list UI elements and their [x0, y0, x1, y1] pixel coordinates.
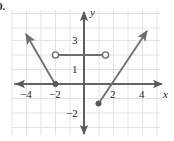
- closed-dot-left: [53, 81, 58, 86]
- x-tick-label-pos2: 2: [110, 88, 116, 100]
- open-circle-right: [102, 52, 108, 58]
- y-tick-label-pos1: 1: [72, 63, 78, 75]
- y-axis-label: y: [89, 6, 95, 18]
- y-tick-label-pos3: 3: [72, 34, 78, 46]
- y-tick-labels: 3 1 −2: [66, 34, 78, 119]
- x-axis-label: x: [162, 88, 168, 100]
- grid-lines: [12, 10, 160, 135]
- open-circle-left: [52, 52, 58, 58]
- left-ray: [26, 34, 55, 84]
- x-tick-label-neg4: −4: [20, 88, 32, 100]
- y-tick-label-neg2: −2: [66, 107, 78, 119]
- graph-figure: 0.: [0, 0, 174, 141]
- closed-dot-right: [96, 101, 101, 106]
- x-tick-label-neg2: −2: [49, 88, 61, 100]
- x-tick-label-pos4: 4: [139, 88, 145, 100]
- coordinate-plane-svg: x y −4 −2 2 4 3 1 −2: [0, 0, 174, 141]
